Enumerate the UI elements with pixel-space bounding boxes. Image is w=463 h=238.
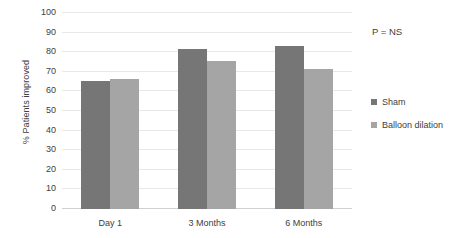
- legend-label: Sham: [382, 97, 406, 107]
- legend-label: Balloon dilation: [382, 120, 443, 130]
- y-tick-label: 90: [46, 27, 56, 37]
- plot-area: 1009080706050403020100 Day 13 Months6 Mo…: [62, 13, 352, 209]
- x-tick-label: 3 Months: [188, 218, 225, 228]
- bar[interactable]: [81, 81, 110, 209]
- y-tick-label: 70: [46, 66, 56, 76]
- y-tick-label: 40: [46, 125, 56, 135]
- bar-group: 6 Months: [255, 13, 352, 209]
- bar-chart: % Patients improved 10090807060504030201…: [0, 0, 463, 238]
- legend-item[interactable]: Balloon dilation: [371, 120, 443, 130]
- bar-group: 3 Months: [159, 13, 256, 209]
- y-tick-label: 80: [46, 46, 56, 56]
- y-tick-label: 60: [46, 85, 56, 95]
- x-tick-label: 6 Months: [285, 218, 322, 228]
- y-tick-label: 50: [46, 105, 56, 115]
- y-tick-label: 10: [46, 183, 56, 193]
- bar[interactable]: [275, 46, 304, 209]
- bar[interactable]: [110, 79, 139, 209]
- y-tick-label: 100: [41, 7, 56, 17]
- bar[interactable]: [178, 49, 207, 209]
- legend-swatch-icon: [371, 99, 377, 105]
- legend-swatch-icon: [371, 122, 377, 128]
- y-tick-label: 20: [46, 164, 56, 174]
- bar[interactable]: [207, 61, 236, 209]
- y-tick-label: 0: [51, 203, 56, 213]
- legend-item[interactable]: Sham: [371, 97, 443, 107]
- y-tick-label: 30: [46, 144, 56, 154]
- bar-group: Day 1: [62, 13, 159, 209]
- bar[interactable]: [304, 69, 333, 209]
- x-tick-label: Day 1: [99, 218, 123, 228]
- legend: ShamBalloon dilation: [371, 97, 443, 130]
- significance-annotation: P = NS: [372, 26, 402, 37]
- y-axis-title: % Patients improved: [21, 32, 31, 172]
